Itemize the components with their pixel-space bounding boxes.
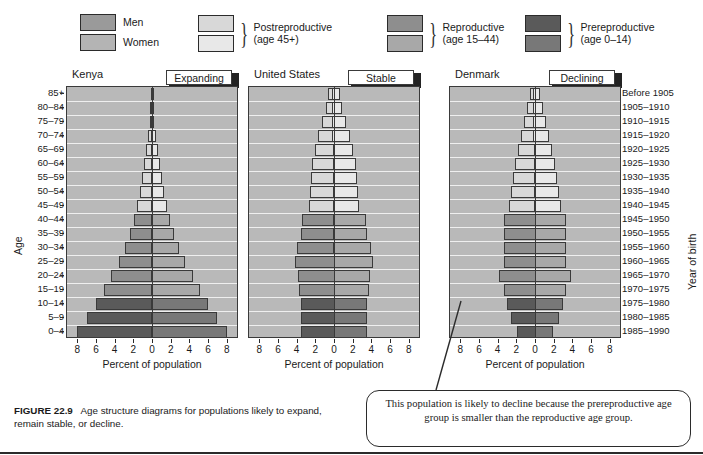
bar-men: [309, 200, 334, 212]
bar-women: [151, 186, 164, 198]
bar-men: [504, 284, 536, 296]
legend-swatch-women: [80, 34, 116, 51]
y-axis-tick-mark: [60, 331, 64, 332]
bar-men: [301, 228, 334, 240]
x-axis-tick-label: 4: [491, 344, 505, 355]
y-axis-tick-mark: [60, 93, 64, 94]
legend-labels-sex: Men Women: [123, 14, 159, 51]
bar-women: [535, 256, 567, 268]
y-axis-tick-mark: [60, 219, 64, 220]
y-axis-age-tick: 65–69: [20, 144, 64, 154]
bar-women: [534, 200, 561, 212]
y-axis-tick-mark: [60, 149, 64, 150]
x-axis-tick-label: 2: [308, 344, 322, 355]
bar-men: [298, 270, 334, 282]
y-axis-age-tick: 60–64: [20, 158, 64, 168]
legend-group-reproductive: } Reproductive (age 15–44): [387, 14, 504, 52]
bar-women: [533, 88, 540, 100]
x-axis-tick-mark: [259, 339, 260, 343]
y-axis-age-tick: 0–4: [20, 326, 64, 336]
bar-women: [151, 214, 170, 226]
x-axis-tick-mark: [479, 339, 480, 343]
bar-men: [515, 158, 535, 170]
center-axis-line: [535, 87, 536, 337]
bar-women: [332, 88, 340, 100]
x-axis-tick-label: 4: [182, 344, 196, 355]
y-axis-year-tick: 1940–1945: [622, 200, 670, 210]
bar-men: [87, 312, 152, 324]
figure-caption: FIGURE 22.9 Age structure diagrams for p…: [14, 404, 354, 430]
y-axis-year-tick: Before 1905: [622, 88, 674, 98]
x-axis-tick-mark: [133, 339, 134, 343]
x-axis-tick-mark: [572, 339, 573, 343]
y-axis-tick-mark: [60, 163, 64, 164]
y-axis-tick-mark: [60, 247, 64, 248]
y-axis-year-tick: 1930–1935: [622, 172, 670, 182]
panel-tab-stable: Stable: [348, 70, 414, 85]
bar-women: [151, 312, 217, 324]
x-axis-tick-mark: [460, 339, 461, 343]
bar-men: [310, 186, 334, 198]
legend-swatch-reproductive-women: [387, 35, 423, 52]
legend-swatch-men: [80, 14, 116, 31]
bar-women: [534, 172, 557, 184]
bar-men: [311, 172, 334, 184]
pyramid-panel-united-states: [248, 86, 420, 338]
y-axis-year-tick: 1965–1970: [622, 270, 670, 280]
y-axis-age-tick: 20–24: [20, 270, 64, 280]
callout-text: This population is likely to decline bec…: [385, 398, 671, 423]
y-axis-age-tick: 80–84: [20, 102, 64, 112]
y-axis-year-tick: 1985–1990: [622, 326, 670, 336]
y-axis-tick-mark: [60, 261, 64, 262]
panel-title-kenya: Kenya: [72, 68, 103, 80]
legend-label-prereproductive-line2: (age 0–14): [580, 33, 654, 46]
y-axis-age-tick: 85+: [20, 88, 64, 98]
bar-men: [504, 228, 536, 240]
bar-men: [315, 144, 334, 156]
x-axis-tick-mark: [371, 339, 372, 343]
x-axis-tick-label: 0: [327, 344, 341, 355]
y-axis-year-tick: 1950–1955: [622, 228, 670, 238]
y-axis-tick-mark: [60, 205, 64, 206]
x-axis-tick-label: 8: [402, 344, 416, 355]
bar-women: [333, 242, 371, 254]
x-axis-tick-mark: [535, 339, 536, 343]
y-axis-year-tick: 1935–1940: [622, 186, 670, 196]
figure-number: FIGURE 22.9: [14, 405, 73, 416]
bar-women: [535, 312, 559, 324]
legend-label-postreproductive: Postreproductive (age 45+): [253, 21, 332, 46]
legend-label-postreproductive-line2: (age 45+): [253, 33, 332, 46]
bar-men: [318, 130, 333, 142]
y-axis-tick-mark: [60, 107, 64, 108]
x-axis-tick-label: 8: [252, 344, 266, 355]
x-axis-tick-label: 0: [528, 344, 542, 355]
legend-swatch-reproductive-men: [387, 15, 423, 32]
y-axis-year-ticks: Before 19051905–19101910–19151915–192019…: [614, 86, 700, 338]
x-axis-tick-label: 8: [603, 344, 617, 355]
legend-swatches-postreproductive: [198, 15, 234, 52]
bar-women: [151, 326, 226, 338]
y-axis-year-tick: 1905–1910: [622, 102, 670, 112]
bar-women: [151, 298, 208, 310]
y-axis-tick-mark: [60, 289, 64, 290]
center-axis-line: [152, 87, 153, 337]
bar-women: [535, 326, 554, 338]
x-axis-tick-label: 8: [70, 344, 84, 355]
legend-swatches-sex: [80, 14, 116, 51]
x-axis-tick-label: 2: [509, 344, 523, 355]
bar-women: [535, 214, 567, 226]
bar-women: [334, 284, 370, 296]
legend-group-sex: Men Women: [80, 14, 159, 51]
x-axis-tick-label: 8: [220, 344, 234, 355]
panel-tab-declining: Declining: [549, 70, 615, 85]
bar-women: [151, 228, 174, 240]
x-axis-tick-label: 8: [453, 344, 467, 355]
bar-men: [504, 214, 536, 226]
y-axis-tick-mark: [60, 233, 64, 234]
y-axis-age-tick: 50–54: [20, 186, 64, 196]
x-axis-title: Percent of population: [449, 358, 621, 370]
x-axis-tick-label: 0: [145, 344, 159, 355]
bar-men: [297, 242, 334, 254]
x-axis-tick-mark: [152, 339, 153, 343]
bar-women: [534, 158, 556, 170]
